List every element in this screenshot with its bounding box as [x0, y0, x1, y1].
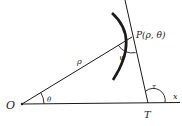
radius-label: ρ — [76, 57, 82, 66]
point-label: P(ρ, θ) — [135, 30, 166, 40]
origin-point — [21, 103, 23, 105]
tangent-line — [125, 0, 148, 103]
x-axis-line — [22, 103, 180, 105]
theta-label: θ — [47, 96, 52, 104]
tangent-point-label: T — [144, 109, 152, 120]
x-axis-label: x — [173, 92, 178, 101]
tau-label: τ — [152, 83, 156, 91]
polar-tangent-diagram: O P(ρ, θ) ρ θ ψ τ T x — [0, 0, 182, 126]
psi-label: ψ — [119, 53, 126, 62]
origin-label: O — [6, 99, 15, 112]
radius-vector-line — [22, 37, 132, 104]
theta-angle-arc — [41, 93, 44, 104]
